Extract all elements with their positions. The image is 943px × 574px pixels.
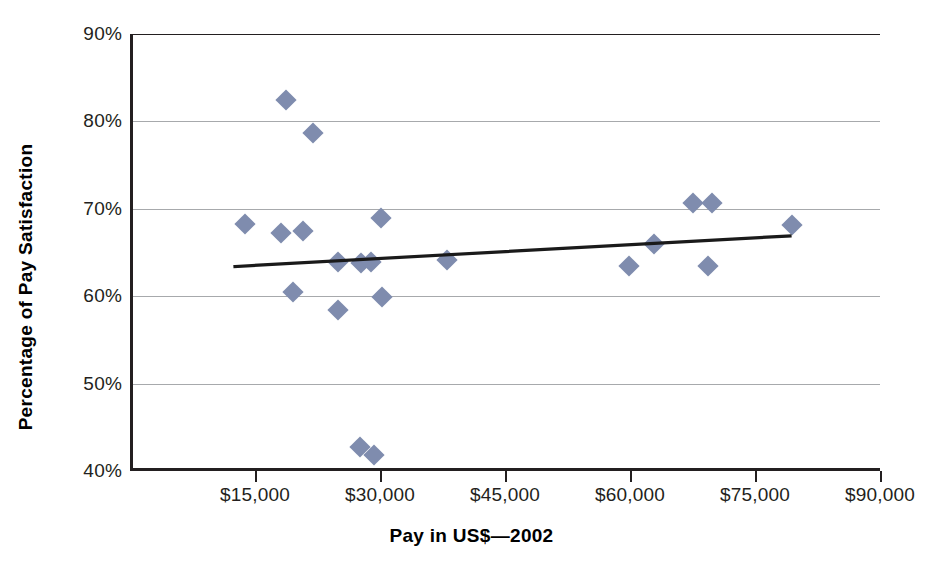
data-point-marker xyxy=(282,281,303,302)
data-point-marker xyxy=(697,255,718,276)
gridline xyxy=(133,384,880,385)
x-tick-mark xyxy=(255,471,257,482)
gridline xyxy=(133,34,880,35)
x-tick-label: $60,000 xyxy=(595,484,665,506)
y-tick-label: 70% xyxy=(83,198,122,220)
x-tick-mark xyxy=(880,471,882,482)
x-tick-mark xyxy=(630,471,632,482)
data-point-marker xyxy=(292,220,313,241)
data-point-marker xyxy=(643,233,664,254)
data-point-marker xyxy=(372,286,393,307)
gridline xyxy=(133,209,880,210)
gridline xyxy=(133,121,880,122)
data-point-marker xyxy=(437,250,458,271)
data-point-marker xyxy=(327,300,348,321)
y-tick-label: 40% xyxy=(83,460,122,482)
x-tick-label: $90,000 xyxy=(845,484,915,506)
y-tick-label: 50% xyxy=(83,373,122,395)
data-point-marker xyxy=(782,214,803,235)
x-tick-mark xyxy=(755,471,757,482)
x-tick-mark xyxy=(380,471,382,482)
data-point-marker xyxy=(234,213,255,234)
y-tick-label: 90% xyxy=(83,23,122,45)
plot-area xyxy=(130,34,880,471)
gridline xyxy=(133,296,880,297)
data-point-marker xyxy=(271,223,292,244)
x-tick-mark xyxy=(505,471,507,482)
data-point-marker xyxy=(702,192,723,213)
data-point-marker xyxy=(302,122,323,143)
x-axis-title: Pay in US$—2002 xyxy=(0,525,943,547)
data-point-marker xyxy=(276,89,297,110)
data-point-marker xyxy=(327,252,348,273)
data-point-marker xyxy=(618,256,639,277)
x-tick-label: $15,000 xyxy=(220,484,290,506)
y-tick-label: 60% xyxy=(83,285,122,307)
y-axis-title: Percentage of Pay Satisfaction xyxy=(15,117,37,457)
x-tick-label: $75,000 xyxy=(720,484,790,506)
x-tick-label: $45,000 xyxy=(470,484,540,506)
scatter-chart: 40%50%60%70%80%90% Percentage of Pay Sat… xyxy=(0,0,943,574)
x-tick-label: $30,000 xyxy=(345,484,415,506)
data-point-marker xyxy=(370,208,391,229)
y-tick-label: 80% xyxy=(83,110,122,132)
